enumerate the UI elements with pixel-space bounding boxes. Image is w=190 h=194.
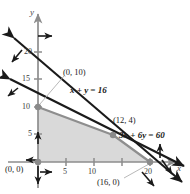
x-tick-label-5: 5 xyxy=(63,168,67,176)
graph-canvas xyxy=(0,0,190,194)
equation-label-x-plus-y: x + y = 16 xyxy=(70,86,107,95)
y-axis-label: y xyxy=(30,8,34,17)
point-label-12-4: (12, 4) xyxy=(113,116,136,125)
y-tick-label-5: 5 xyxy=(28,130,32,138)
y-tick-label-10: 10 xyxy=(22,103,30,111)
y-tick-label-20: 20 xyxy=(24,48,32,56)
point-label-16-0: (16, 0) xyxy=(97,178,120,187)
equation-label-3x-plus-6y: 3x + 6y = 60 xyxy=(119,131,165,140)
point-label-0-0: (0, 0) xyxy=(5,165,23,174)
linear-programming-graph: y x 20 15 10 5 5 10 20 (0, 10) (12, 4) (… xyxy=(0,0,190,194)
x-axis-label: x xyxy=(177,164,181,173)
y-tick-label-15: 15 xyxy=(22,75,30,83)
x-tick-label-20: 20 xyxy=(144,168,152,176)
point-label-0-10: (0, 10) xyxy=(63,68,86,77)
x-tick-label-10: 10 xyxy=(88,168,96,176)
